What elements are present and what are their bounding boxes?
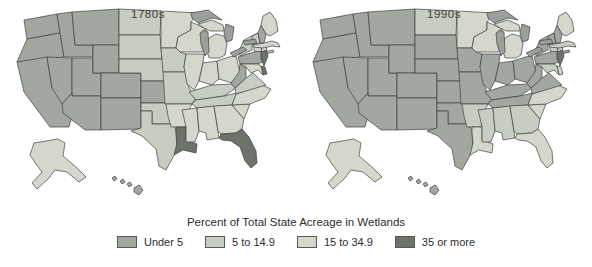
- map-block-1780s: 1780s: [0, 0, 296, 215]
- state-CO: [397, 73, 437, 98]
- state-HI: [120, 179, 125, 184]
- state-HI: [127, 182, 132, 187]
- maps-row: 1780s 1990s: [0, 0, 592, 215]
- state-WY: [93, 45, 119, 73]
- legend-swatch-c35: [395, 236, 415, 248]
- legend-title: Percent of Total State Acreage in Wetlan…: [0, 216, 592, 228]
- legend-items: Under 55 to 14.915 to 34.935 or more: [117, 236, 475, 248]
- legend-swatch-c15_35: [297, 236, 317, 248]
- state-HI: [423, 182, 428, 187]
- state-MI: [502, 34, 523, 58]
- state-FL: [515, 129, 553, 168]
- state-CO: [101, 73, 141, 98]
- us-map-1780s: [0, 0, 296, 215]
- state-AK: [30, 139, 86, 189]
- map-block-1990s: 1990s: [296, 0, 592, 215]
- state-HI: [134, 185, 143, 195]
- legend-swatch-u5: [117, 236, 137, 248]
- state-WY: [389, 45, 415, 73]
- state-NM: [397, 98, 437, 130]
- legend-label-c15_35: 15 to 34.9: [324, 236, 373, 248]
- legend-item-u5: Under 5: [117, 236, 183, 248]
- state-NM: [101, 98, 141, 130]
- wetlands-choropleth-figure: 1780s 1990s Percent of Total State Acrea…: [0, 0, 592, 267]
- legend-swatch-c5_15: [205, 236, 225, 248]
- state-SD: [119, 35, 162, 59]
- legend-label-u5: Under 5: [144, 236, 183, 248]
- legend-item-c5_15: 5 to 14.9: [205, 236, 275, 248]
- state-FL: [219, 129, 257, 168]
- state-AK: [326, 139, 382, 189]
- state-MI: [206, 34, 227, 58]
- state-HI: [408, 176, 413, 181]
- state-HI: [112, 176, 117, 181]
- legend: Percent of Total State Acreage in Wetlan…: [0, 216, 592, 252]
- legend-label-c35: 35 or more: [422, 236, 475, 248]
- legend-item-c35: 35 or more: [395, 236, 475, 248]
- map-title-1990s: 1990s: [296, 8, 592, 20]
- legend-label-c5_15: 5 to 14.9: [232, 236, 275, 248]
- legend-item-c15_35: 15 to 34.9: [297, 236, 373, 248]
- us-map-1990s: [296, 0, 592, 215]
- map-title-1780s: 1780s: [0, 8, 296, 20]
- state-SD: [415, 35, 458, 59]
- state-HI: [430, 185, 439, 195]
- state-HI: [416, 179, 421, 184]
